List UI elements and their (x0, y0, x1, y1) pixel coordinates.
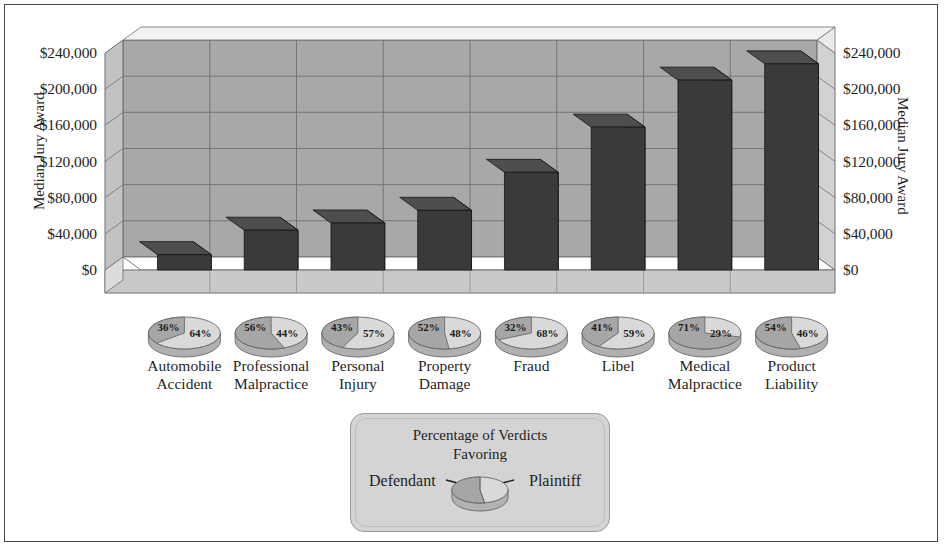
y-tick-right-120000: $120,000 (843, 153, 935, 171)
y-tick-right-0: $0 (843, 261, 935, 279)
category-label-1-line1: Automobile (137, 357, 232, 375)
y-tick-left-240000: $240,000 (5, 44, 97, 62)
y-tick-right-200000: $200,000 (843, 80, 935, 98)
y-tick-left-120000: $120,000 (5, 153, 97, 171)
category-label-7-line2: Malpractice (658, 375, 753, 393)
pie-3-plaintiff-pct: 57% (363, 327, 385, 339)
pie-8-plaintiff-pct: 46% (797, 327, 819, 339)
chart-frame: $0$40,000$80,000$120,000$160,000$200,000… (4, 4, 938, 542)
category-label-8-line1: Product (744, 357, 839, 375)
y-axis-right-title: Median Jury Award (894, 97, 911, 215)
pie-8-defendant-pct: 54% (765, 321, 787, 333)
pie-4-plaintiff-pct: 48% (450, 327, 472, 339)
chart-left-wall (105, 40, 123, 270)
category-label-3-line2: Injury (311, 375, 406, 393)
pie-3-defendant-pct: 43% (331, 321, 353, 333)
pie-5-defendant-pct: 32% (504, 321, 526, 333)
category-label-8: ProductLiability (744, 357, 839, 392)
y-tick-right-240000: $240,000 (843, 44, 935, 62)
category-label-6-line1: Libel (571, 357, 666, 375)
category-label-7-line1: Medical (658, 357, 753, 375)
y-tick-left-160000: $160,000 (5, 116, 97, 134)
chart-top-rim (123, 27, 835, 40)
pie-1-defendant-pct: 36% (157, 321, 179, 333)
category-label-2-line2: Malpractice (224, 375, 319, 393)
pie-5-plaintiff-pct: 68% (536, 327, 558, 339)
bar-chart-3d (5, 5, 939, 305)
y-tick-left-0: $0 (5, 261, 97, 279)
category-label-2-line1: Professional (224, 357, 319, 375)
legend-pie (351, 414, 609, 531)
y-tick-right-160000: $160,000 (843, 116, 935, 134)
category-label-5-line1: Fraud (484, 357, 579, 375)
pie-4-defendant-pct: 52% (418, 321, 440, 333)
y-axis-left-title: Median Jury Award (31, 92, 48, 210)
category-label-1-line2: Accident (137, 375, 232, 393)
category-label-8-line2: Liability (744, 375, 839, 393)
category-label-1: AutomobileAccident (137, 357, 232, 392)
category-label-4-line1: Property (397, 357, 492, 375)
y-tick-right-80000: $80,000 (843, 189, 935, 207)
category-label-4: PropertyDamage (397, 357, 492, 392)
category-label-3-line1: Personal (311, 357, 406, 375)
legend-box: Percentage of Verdicts Favoring Defendan… (350, 413, 610, 532)
category-label-4-line2: Damage (397, 375, 492, 393)
pie-7-plaintiff-pct: 29% (710, 327, 732, 339)
y-tick-right-40000: $40,000 (843, 225, 935, 243)
pie-6-defendant-pct: 41% (591, 321, 613, 333)
y-tick-left-200000: $200,000 (5, 80, 97, 98)
y-tick-left-40000: $40,000 (5, 225, 97, 243)
chart-right-wall (817, 40, 835, 270)
pie-2-plaintiff-pct: 44% (276, 327, 298, 339)
category-label-7: MedicalMalpractice (658, 357, 753, 392)
pie-6-plaintiff-pct: 59% (623, 327, 645, 339)
category-label-3: PersonalInjury (311, 357, 406, 392)
pie-2-defendant-pct: 56% (244, 321, 266, 333)
category-label-2: ProfessionalMalpractice (224, 357, 319, 392)
y-tick-left-80000: $80,000 (5, 189, 97, 207)
pie-7-defendant-pct: 71% (678, 321, 700, 333)
category-label-5: Fraud (484, 357, 579, 375)
category-label-6: Libel (571, 357, 666, 375)
pie-1-plaintiff-pct: 64% (189, 327, 211, 339)
